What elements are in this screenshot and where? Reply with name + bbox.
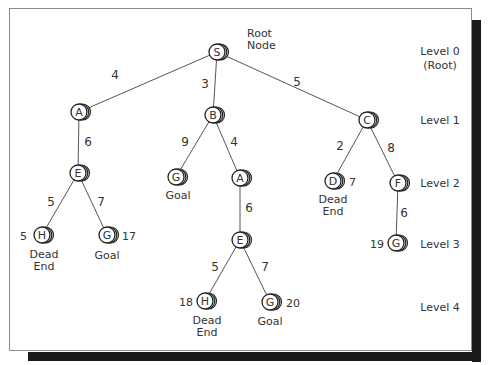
node-A1: A (71, 104, 91, 120)
annotation-text: Node (247, 39, 276, 52)
edge-S-B (213, 52, 217, 115)
node-label: E (237, 234, 244, 247)
node-A2: A (232, 170, 252, 186)
node-E1: E (70, 165, 90, 181)
node-H2: H (197, 293, 217, 309)
node-E2: E (232, 232, 252, 248)
node-label: C (363, 114, 371, 127)
annotation-text: Goal (94, 249, 119, 262)
node-B: B (205, 107, 225, 123)
node-G2: G (99, 227, 119, 243)
annotation-text: 7 (349, 176, 356, 189)
edge-S-A1 (79, 52, 217, 112)
node-H1: H (34, 227, 54, 243)
annotation-text: 17 (122, 230, 136, 243)
node-label: G (266, 296, 275, 309)
node-label: G (172, 171, 181, 184)
node-D: D (325, 173, 345, 189)
level-label: Level 2 (420, 177, 460, 190)
level-labels: Level 0(Root)Level 1Level 2Level 3Level … (420, 45, 460, 314)
annotation-text: End (197, 326, 218, 339)
edge-cost-label: 6 (84, 135, 92, 149)
node-label: F (395, 177, 401, 190)
node-label: A (75, 106, 83, 119)
edge-cost-label: 6 (245, 201, 253, 215)
edge-cost-label: 4 (230, 135, 238, 149)
edge-cost-label: 7 (97, 195, 105, 209)
node-C: C (359, 112, 379, 128)
search-tree: 43569428576657 SABCEGADFHGEGHG RootNodeD… (0, 0, 488, 365)
edges-group (42, 52, 398, 302)
edge-cost-label: 7 (261, 260, 269, 274)
node-label: E (75, 167, 82, 180)
annotation-text: Goal (257, 315, 282, 328)
annotation-text: 5 (20, 230, 27, 243)
node-S: S (209, 44, 229, 60)
annotation-text: End (34, 260, 55, 273)
level-label: Level 4 (420, 301, 460, 314)
node-G4: G (262, 294, 282, 310)
node-label: D (329, 175, 337, 188)
level-label: Level 0 (420, 45, 460, 58)
level-label: Level 3 (420, 238, 460, 251)
edge-cost-label: 8 (387, 141, 395, 155)
edge-cost-label: 9 (181, 135, 189, 149)
edge-S-C (217, 52, 367, 120)
annotation-text: 19 (370, 238, 384, 251)
annotation-text: 18 (179, 296, 193, 309)
edge-A1-E1 (78, 112, 79, 173)
node-label: S (214, 46, 221, 59)
node-label: H (201, 295, 209, 308)
edge-cost-label: 5 (293, 75, 301, 89)
node-G1: G (168, 169, 188, 185)
node-label: A (236, 172, 244, 185)
node-label: G (392, 237, 401, 250)
node-label: H (38, 229, 46, 242)
level-label: (Root) (423, 59, 457, 72)
diagram-canvas: 43569428576657 SABCEGADFHGEGHG RootNodeD… (0, 0, 488, 365)
annotation-text: 20 (286, 297, 300, 310)
node-label: G (103, 229, 112, 242)
annotation-text: End (323, 205, 344, 218)
edge-cost-label: 3 (201, 77, 209, 91)
node-G3: G (388, 235, 408, 251)
annotation-text: Goal (165, 189, 190, 202)
edge-cost-label: 4 (111, 68, 119, 82)
edge-cost-labels: 43569428576657 (47, 68, 408, 274)
edge-cost-label: 2 (336, 139, 344, 153)
edge-F-G3 (396, 183, 398, 243)
edge-cost-label: 5 (211, 260, 219, 274)
edge-cost-label: 5 (47, 195, 55, 209)
edge-cost-label: 6 (400, 206, 408, 220)
node-F: F (390, 175, 410, 191)
node-label: B (209, 109, 217, 122)
level-label: Level 1 (420, 114, 460, 127)
